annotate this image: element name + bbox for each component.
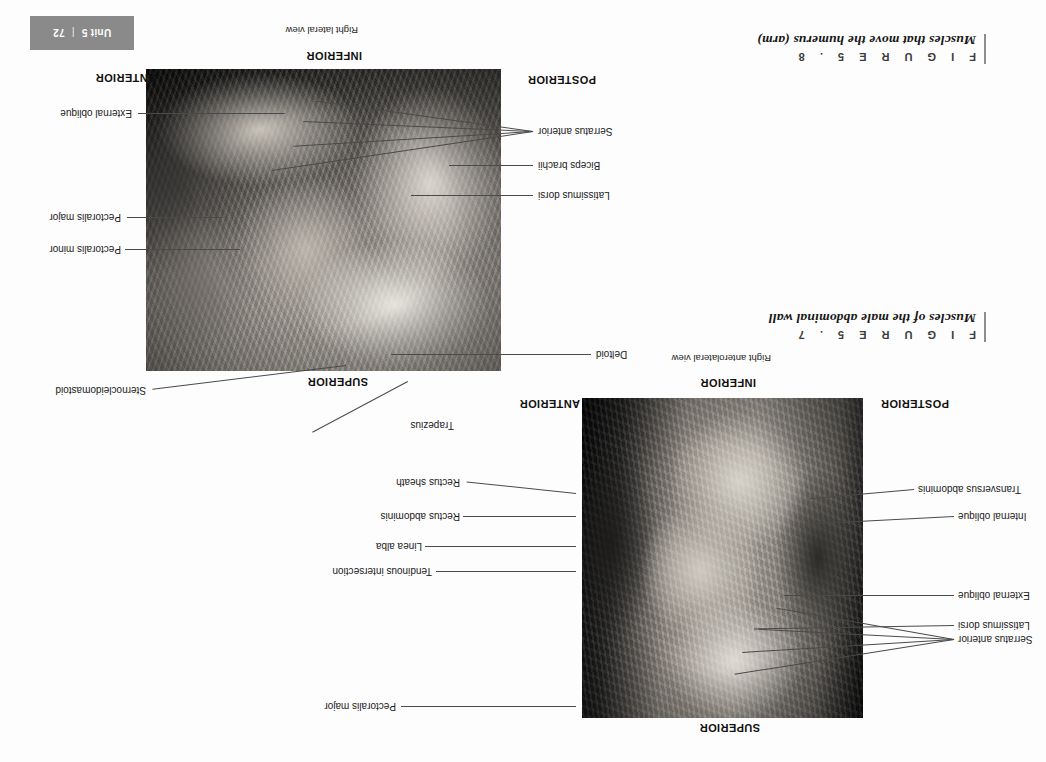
leader-line-linea-alba <box>425 546 576 547</box>
textbook-page: F I G U R E 5 . 8 Muscles that move the … <box>0 0 1046 762</box>
figure-5-7-label-internal-oblique: Internal oblique <box>958 511 1026 522</box>
page-tab-number: 72 <box>53 28 65 39</box>
figure-5-7-label-external-oblique: External oblique <box>958 590 1030 601</box>
figure-5-7-number: F I G U R E 5 . 7 <box>793 329 976 341</box>
figure-5-7-orientation-inferior: INFERIOR <box>700 377 756 389</box>
caption-rule <box>984 312 986 342</box>
figure-5-7-label-linea-alba: Linea alba <box>376 541 422 552</box>
figure-5-7-view-text: Right anterolateral view <box>672 353 771 364</box>
figure-5-7-title: Muscles of the male abdominal wall <box>769 310 976 326</box>
figure-5-7: F I G U R E 5 . 7 Muscles of the male ab… <box>0 0 1046 762</box>
page-tab-unit: Unit 5 <box>82 28 112 39</box>
leader-line-tendinous-intersection <box>436 571 576 572</box>
page-tab: Unit 5 | 72 <box>30 16 134 50</box>
figure-5-7-label-pectoralis-major: Pectoralis major <box>324 701 396 712</box>
figure-5-7-label-latissimus-dorsi: Latissimus dorsi <box>958 620 1030 631</box>
page-tab-separator: | <box>72 28 75 39</box>
figure-5-7-orientation-posterior: POSTERIOR <box>881 398 949 410</box>
leader-line-rectus-sheath <box>467 482 577 494</box>
leader-line-pectoralis-major <box>401 706 576 707</box>
leader-line-external-oblique <box>784 595 954 596</box>
photo-vignette <box>582 398 863 718</box>
figure-5-7-label-rectus-sheath: Rectus sheath <box>396 477 460 488</box>
leader-line-rectus-abdominis <box>463 516 576 517</box>
figure-5-7-label-transversus-abdominis: Transversus abdominis <box>918 484 1021 495</box>
figure-5-7-label-serratus-anterior: Serratus anterior <box>958 634 1032 645</box>
figure-5-7-orientation-superior: SUPERIOR <box>699 722 760 734</box>
figure-5-7-label-tendinous-intersection: Tendinous intersection <box>332 566 432 577</box>
figure-5-7-photograph <box>582 398 863 718</box>
figure-5-7-label-rectus-abdominis: Rectus abdominis <box>381 511 460 522</box>
figure-5-7-orientation-anterior: ANTERIOR <box>519 398 580 410</box>
